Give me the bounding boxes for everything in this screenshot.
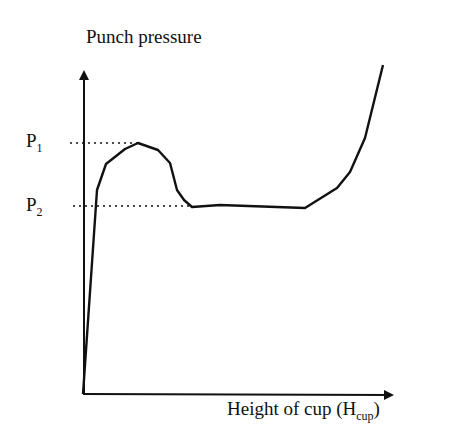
pressure-curve: [83, 65, 383, 394]
p1-label: P1: [26, 130, 43, 152]
chart-canvas: [0, 0, 455, 446]
p2-label: P2: [26, 194, 43, 216]
x-axis: [83, 394, 392, 395]
y-axis-label: Punch pressure: [86, 26, 202, 48]
x-axis-label: Height of cup (Hcup): [227, 398, 380, 420]
